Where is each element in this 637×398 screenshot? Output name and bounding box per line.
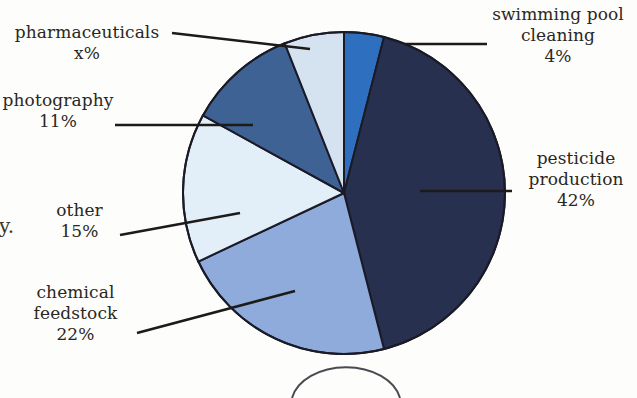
label-pharmaceuticals-name: pharmaceuticals	[15, 22, 159, 42]
label-swimming-pool-cleaning-line2: cleaning	[482, 25, 634, 46]
label-pesticide-production-line1: pesticide	[537, 148, 616, 168]
label-pharmaceuticals-percent: x%	[2, 43, 172, 64]
label-other-name: other	[56, 200, 103, 220]
label-pharmaceuticals: pharmaceuticals x%	[2, 22, 172, 64]
label-swimming-pool-cleaning: swimming pool cleaning 4%	[482, 4, 634, 67]
label-other-percent: 15%	[42, 221, 117, 242]
label-photography-name: photography	[3, 90, 114, 110]
label-pesticide-production-percent: 42%	[518, 190, 634, 211]
label-swimming-pool-cleaning-line1: swimming pool	[492, 4, 624, 24]
pie-slices	[183, 32, 505, 354]
label-chemical-feedstock: chemical feedstock 22%	[18, 282, 133, 345]
adjacent-figure-arc	[292, 367, 400, 398]
label-swimming-pool-cleaning-percent: 4%	[482, 46, 634, 67]
pie-chart-figure: pharmaceuticals x% photography 11% other…	[0, 0, 637, 398]
label-chemical-feedstock-line2: feedstock	[18, 303, 133, 324]
label-other: other 15%	[42, 200, 117, 242]
label-pesticide-production: pesticide production 42%	[518, 148, 634, 211]
page-text-fragment: y.	[0, 214, 14, 238]
label-pesticide-production-line2: production	[518, 169, 634, 190]
label-chemical-feedstock-percent: 22%	[18, 324, 133, 345]
label-chemical-feedstock-line1: chemical	[37, 282, 115, 302]
label-photography: photography 11%	[2, 90, 114, 132]
label-photography-percent: 11%	[2, 111, 114, 132]
